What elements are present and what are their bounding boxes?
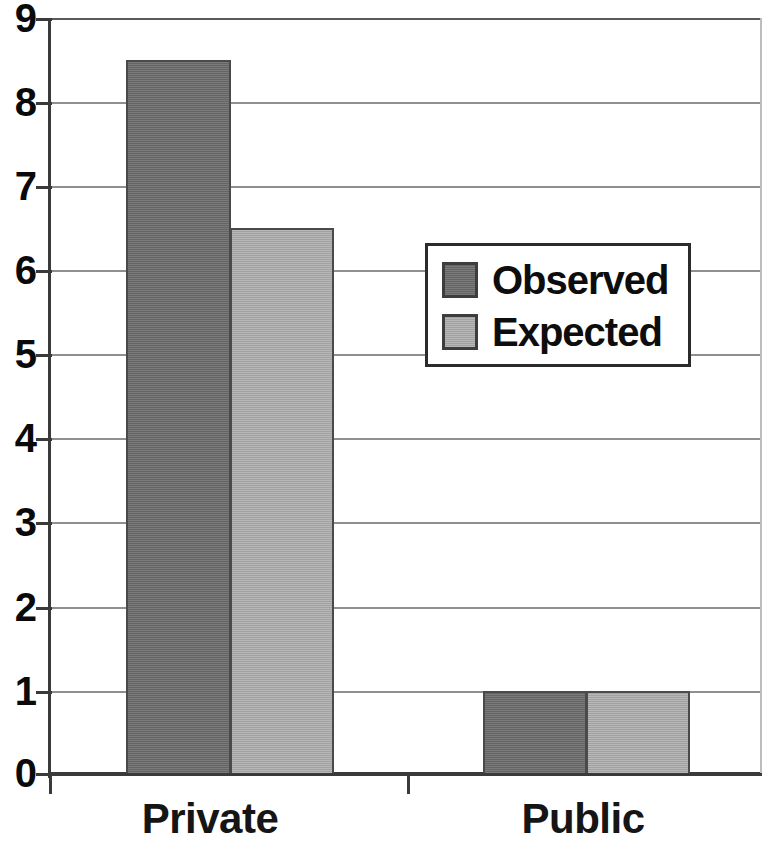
bar-private-expected: [230, 228, 334, 775]
chart-legend: Observed Expected: [425, 243, 691, 367]
legend-label-observed: Observed: [492, 260, 669, 300]
y-tick-8: [36, 102, 52, 105]
bar-chart: Observed Expected 9 8 7 6 5 4 3 2 1 0 Pr…: [0, 0, 771, 857]
x-axis-line: [50, 773, 762, 776]
y-tick-3: [36, 522, 52, 525]
y-axis-label-4: 4: [0, 418, 36, 458]
y-axis-label-2: 2: [0, 587, 36, 627]
y-tick-1: [36, 691, 52, 694]
y-tick-4: [36, 438, 52, 441]
legend-swatch-observed-icon: [442, 262, 478, 298]
y-axis-label-1: 1: [0, 671, 36, 711]
x-axis-label-private: Private: [110, 798, 310, 840]
y-axis-label-9: 9: [0, 0, 36, 38]
y-tick-9: [36, 18, 52, 21]
y-axis-label-5: 5: [0, 334, 36, 374]
y-tick-5: [36, 354, 52, 357]
x-tick-left-edge: [49, 776, 52, 794]
y-axis-label-8: 8: [0, 82, 36, 122]
plot-area: Observed Expected: [50, 18, 762, 775]
y-tick-7: [36, 186, 52, 189]
y-tick-2: [36, 607, 52, 610]
gridline-9: [50, 18, 760, 20]
legend-item-observed: Observed: [428, 254, 688, 306]
y-axis-line: [48, 18, 51, 778]
bar-private-observed: [126, 60, 231, 775]
bar-public-observed: [483, 691, 587, 775]
x-axis-label-public: Public: [483, 798, 683, 840]
y-tick-6: [36, 270, 52, 273]
y-axis-label-0: 0: [0, 753, 36, 793]
legend-swatch-expected-icon: [442, 314, 478, 350]
y-axis-label-7: 7: [0, 166, 36, 206]
y-axis-label-3: 3: [0, 502, 36, 542]
x-tick-category-divider: [407, 776, 410, 794]
y-axis-label-6: 6: [0, 250, 36, 290]
bar-public-expected: [586, 691, 690, 775]
legend-label-expected: Expected: [492, 312, 662, 352]
legend-item-expected: Expected: [428, 306, 688, 358]
